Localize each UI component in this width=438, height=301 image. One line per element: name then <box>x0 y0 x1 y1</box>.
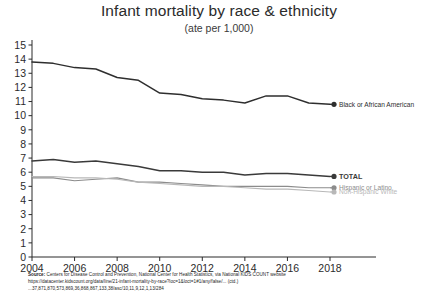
source-footnote: Source: Centers for Disease Control and … <box>28 271 436 293</box>
chart-container: Infant mortality by race & ethnicity (at… <box>0 0 438 301</box>
series-legend-label: TOTAL <box>339 172 363 181</box>
y-axis-tick-label: 11 <box>15 95 26 107</box>
source-text: Centers for Disease Control and Preventi… <box>45 272 286 277</box>
y-axis-tick-label: 13 <box>14 67 26 79</box>
y-axis-tick-label: 6 <box>20 166 26 178</box>
series-legend-label: Black or African American <box>339 101 414 108</box>
series-line <box>32 159 330 176</box>
footnote-line-2: https://datacenter.kidscount.org/data/li… <box>28 278 436 285</box>
y-axis-tick-label: 7 <box>20 152 26 164</box>
footnote-line-3: ...37,871,870,573,869,36,868,867,133,38/… <box>28 285 436 292</box>
series-line <box>32 178 330 188</box>
y-axis-tick-label: 8 <box>20 138 26 150</box>
y-axis-tick-label: 1 <box>20 237 26 249</box>
series-line <box>32 176 330 192</box>
y-axis-tick-label: 3 <box>20 208 26 220</box>
y-axis-tick-label: 2 <box>20 223 26 235</box>
y-axis-tick-label: 5 <box>20 180 26 192</box>
y-axis-tick-label: 10 <box>14 109 26 121</box>
y-axis-tick-label: 9 <box>20 124 26 136</box>
y-axis-tick-label: 12 <box>14 81 26 93</box>
series-line <box>32 62 330 104</box>
y-axis-tick-label: 4 <box>20 194 26 206</box>
source-label: Source: <box>28 272 45 277</box>
y-axis-tick-label: 14 <box>14 53 26 65</box>
footnote-line-1: Source: Centers for Disease Control and … <box>28 271 436 278</box>
chart-plot-area: 0123456789101112131415200420062008201020… <box>0 0 438 301</box>
series-legend-label: Non-Hispanic White <box>339 188 398 196</box>
y-axis-tick-label: 15 <box>14 39 26 51</box>
